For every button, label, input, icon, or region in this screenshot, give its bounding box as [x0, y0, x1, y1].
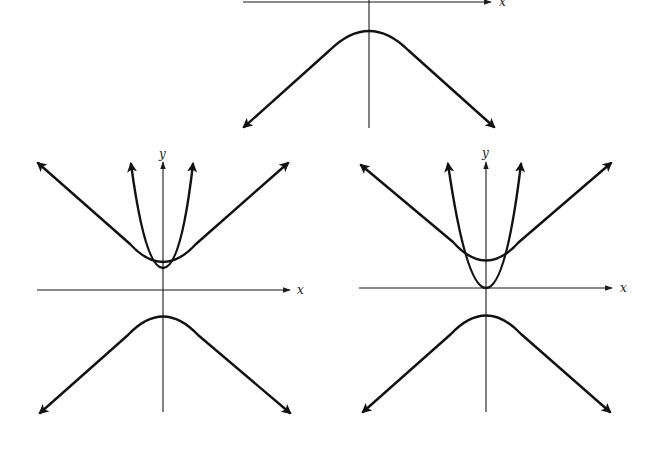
x-axis-label: x [620, 281, 627, 295]
x-axis-label: x [297, 283, 304, 297]
y-axis-label: y [158, 147, 166, 161]
parabola [448, 164, 521, 288]
hyperbola-parabola-diagram: x x y x y [0, 0, 649, 458]
panel-top: x [243, 0, 506, 128]
x-axis-label: x [499, 0, 506, 9]
panel-bottom-left: x y [37, 147, 304, 413]
panel-bottom-right: x y [359, 146, 627, 412]
y-axis-label: y [481, 146, 489, 160]
hyperbola-lower-branch [40, 317, 290, 414]
